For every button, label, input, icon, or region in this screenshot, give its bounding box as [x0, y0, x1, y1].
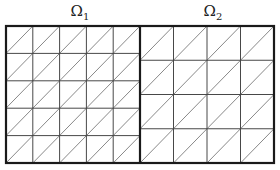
omega-1-mesh	[6, 26, 140, 163]
mesh-diagram	[0, 0, 280, 170]
omega-2-mesh	[140, 26, 274, 163]
